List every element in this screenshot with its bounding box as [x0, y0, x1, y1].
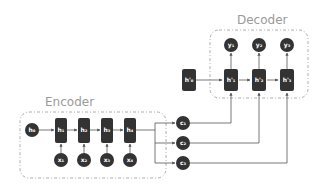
encoder-hidden-node: h₃: [101, 118, 113, 143]
svg-text:h₄: h₄: [127, 126, 134, 133]
encoder-input-node: x₄: [123, 153, 137, 167]
svg-text:x₁: x₁: [58, 156, 65, 163]
encoder-hidden-node: h₁: [55, 118, 67, 143]
decoder-hidden-node: h'₂: [252, 69, 266, 91]
svg-text:h₁: h₁: [58, 126, 65, 133]
encoder-hidden-node: h₂: [78, 118, 90, 143]
encoder-input-node: x₁: [54, 153, 68, 167]
svg-text:c₃: c₃: [180, 159, 187, 166]
context-node: c₂: [176, 136, 190, 150]
decoder-title: Decoder: [237, 13, 288, 27]
decoder-output-node: y₃: [280, 38, 294, 52]
decoder-output-node: y₂: [252, 38, 266, 52]
decoder-initial-node: h'₀: [182, 69, 196, 91]
decoder-hidden-node: h'₃: [280, 69, 294, 91]
svg-text:x₂: x₂: [81, 156, 88, 163]
decoder-output-node: y₁: [224, 38, 238, 52]
svg-text:c₁: c₁: [180, 119, 187, 126]
svg-text:x₄: x₄: [127, 156, 134, 163]
encoder-initial-node: h₀: [25, 123, 39, 137]
svg-text:h₃: h₃: [104, 126, 111, 133]
svg-text:h'₀: h'₀: [185, 76, 194, 83]
encoder-title: Encoder: [45, 95, 94, 109]
svg-text:h₂: h₂: [81, 126, 88, 133]
svg-text:x₃: x₃: [104, 156, 111, 163]
svg-text:c₂: c₂: [180, 139, 187, 146]
svg-text:h'₂: h'₂: [255, 76, 264, 83]
context-edges: [190, 93, 287, 163]
svg-text:h'₁: h'₁: [227, 76, 236, 83]
svg-text:y₂: y₂: [256, 41, 263, 49]
decoder-hidden-node: h'₁: [224, 69, 238, 91]
svg-text:y₁: y₁: [228, 41, 235, 49]
svg-text:h₀: h₀: [29, 126, 36, 133]
svg-text:h'₃: h'₃: [283, 76, 292, 83]
encoder-hidden-node: h₄: [124, 118, 136, 143]
context-node: c₁: [176, 116, 190, 130]
context-node: c₃: [176, 156, 190, 170]
encoder-input-node: x₂: [77, 153, 91, 167]
svg-text:y₃: y₃: [284, 41, 291, 49]
encoder-box: [20, 112, 166, 178]
seq2seq-diagram: Encoder Decoder h₀: [0, 0, 325, 188]
encoder-input-node: x₃: [100, 153, 114, 167]
